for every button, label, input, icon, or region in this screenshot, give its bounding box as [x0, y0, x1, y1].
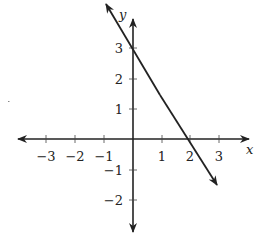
x-tick-label: 3 [215, 149, 223, 164]
y-axis-label: y [118, 7, 127, 22]
coordinate-plane: −3 −2 −1 1 2 3 3 2 1 −1 −2 x y [0, 0, 264, 247]
x-tick-label: −3 [36, 149, 55, 164]
x-tick-label: −1 [94, 149, 113, 164]
y-tick-label: 3 [115, 41, 123, 56]
stray-mark [8, 101, 10, 102]
x-tick-label: 1 [158, 149, 166, 164]
y-tick-label: −1 [104, 163, 123, 178]
x-tick-label: 2 [186, 149, 194, 164]
x-tick-label: −2 [65, 149, 84, 164]
y-tick-label: 2 [115, 72, 123, 87]
x-axis-label: x [246, 142, 254, 157]
y-tick-label: 1 [115, 102, 123, 117]
y-tick-label: −2 [104, 193, 123, 208]
